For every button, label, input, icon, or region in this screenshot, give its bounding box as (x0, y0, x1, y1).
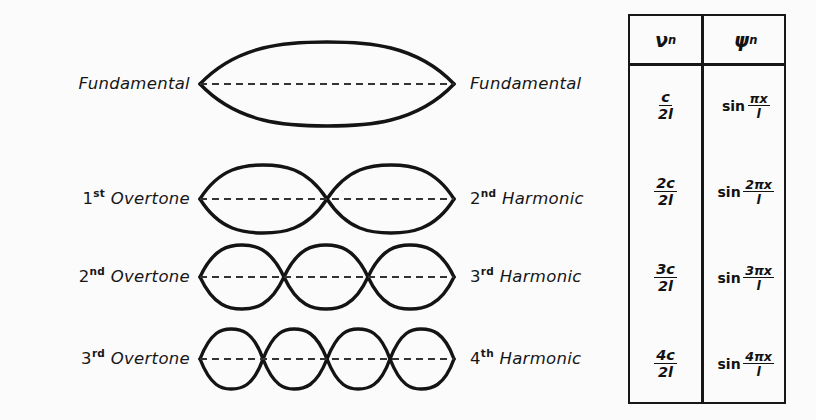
fraction-numerator: 4c (654, 348, 677, 364)
fraction-denominator: l (754, 106, 762, 120)
fraction-argument: 4πx l (743, 350, 774, 379)
sine-function-label: sin (718, 184, 741, 200)
table-cell-wavefunction: sin 2πx l (704, 149, 789, 235)
label-right-second-harmonic-text: Harmonic (502, 189, 584, 208)
fraction-numerator: πx (748, 92, 770, 106)
label-right-fourth-harmonic: 4th Harmonic (470, 351, 581, 368)
fraction-numerator: 4πx (743, 350, 774, 364)
fraction-frequency: 2c 2l (654, 176, 677, 209)
label-right-third-harmonic-text: Harmonic (500, 267, 582, 286)
fraction-denominator: l (754, 278, 762, 292)
table-cell-wavefunction: sin πx l (704, 63, 789, 149)
fraction-denominator: 2l (656, 278, 675, 294)
wave-first-overtone (198, 165, 456, 233)
table-cell-wavefunction: sin 3πx l (704, 235, 789, 321)
table-cell-frequency: 2c 2l (630, 149, 701, 235)
table-cell-frequency: 3c 2l (630, 235, 701, 321)
sine-expression: sin πx l (722, 92, 770, 121)
label-left-first-overtone: 1st Overtone (83, 191, 191, 208)
label-right-fourth-harmonic-text: Harmonic (499, 349, 581, 368)
label-right-third-harmonic: 3rd Harmonic (470, 269, 582, 286)
fraction-numerator: c (659, 90, 672, 106)
fraction-frequency: c 2l (656, 90, 675, 123)
label-left-second-overtone-ordinal: 2 (79, 267, 90, 286)
label-right-fundamental-text: Fundamental (470, 74, 581, 93)
label-left-third-overtone-text: Overtone (111, 349, 190, 368)
sine-expression: sin 3πx l (718, 264, 774, 293)
table-header-frequency-symbol: ν (655, 29, 668, 51)
fraction-numerator: 2πx (743, 178, 774, 192)
fraction-denominator: 2l (656, 192, 675, 208)
fraction-argument: 2πx l (743, 178, 774, 207)
label-left-third-overtone: 3rd Overtone (81, 351, 190, 368)
fraction-argument: πx l (748, 92, 770, 121)
fraction-denominator: 2l (656, 364, 675, 380)
fraction-argument: 3πx l (743, 264, 774, 293)
sine-expression: sin 2πx l (718, 178, 774, 207)
fraction-frequency: 4c 2l (654, 348, 677, 381)
label-left-second-overtone-superscript: nd (90, 265, 106, 277)
fraction-denominator: l (754, 364, 762, 378)
sine-expression: sin 4πx l (718, 350, 774, 379)
table-header-wavefunction-symbol: ψ (734, 29, 749, 51)
label-left-fundamental-text: Fundamental (79, 74, 190, 93)
fraction-denominator: 2l (656, 106, 675, 122)
table-cell-frequency: 4c 2l (630, 321, 701, 407)
label-right-third-harmonic-superscript: rd (481, 265, 494, 277)
sine-function-label: sin (718, 270, 741, 286)
formula-table: νn ψn c 2l sin πx l 2c 2l (628, 14, 786, 404)
label-right-second-harmonic-ordinal: 2 (470, 189, 481, 208)
label-right-second-harmonic: 2nd Harmonic (470, 191, 584, 208)
table-cell-frequency: c 2l (630, 63, 701, 149)
label-right-second-harmonic-superscript: nd (481, 187, 497, 199)
fraction-frequency: 3c 2l (654, 262, 677, 295)
label-left-third-overtone-superscript: rd (92, 347, 105, 359)
label-right-fundamental: Fundamental (470, 76, 581, 93)
label-right-fourth-harmonic-superscript: th (481, 347, 494, 359)
wave-second-overtone (198, 245, 456, 309)
table-cell-wavefunction: sin 4πx l (704, 321, 789, 407)
table-header-frequency: νn (630, 16, 701, 63)
sine-function-label: sin (718, 356, 741, 372)
label-left-second-overtone: 2nd Overtone (79, 269, 190, 286)
label-left-second-overtone-text: Overtone (111, 267, 190, 286)
fraction-denominator: l (754, 192, 762, 206)
label-left-fundamental: Fundamental (79, 76, 190, 93)
wave-third-overtone (198, 329, 456, 389)
figure-canvas: Fundamental Fundamental 1st Overtone 2nd… (0, 0, 816, 420)
table-header-wavefunction: ψn (704, 16, 789, 63)
label-left-first-overtone-ordinal: 1 (83, 189, 94, 208)
fraction-numerator: 3c (654, 262, 677, 278)
wave-fundamental (198, 42, 456, 126)
label-right-fourth-harmonic-ordinal: 4 (470, 349, 481, 368)
fraction-numerator: 3πx (743, 264, 774, 278)
label-left-first-overtone-text: Overtone (111, 189, 190, 208)
label-left-third-overtone-ordinal: 3 (81, 349, 92, 368)
label-right-third-harmonic-ordinal: 3 (470, 267, 481, 286)
sine-function-label: sin (722, 98, 745, 114)
label-left-first-overtone-superscript: st (93, 187, 105, 199)
fraction-numerator: 2c (654, 176, 677, 192)
